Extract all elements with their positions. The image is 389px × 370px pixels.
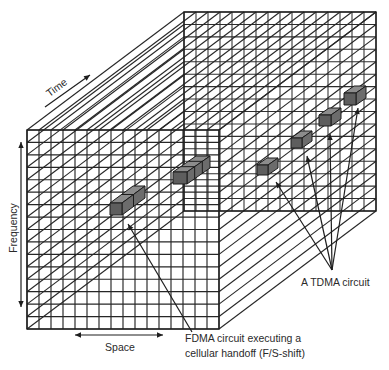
tdma-caption: A TDMA circuit <box>301 276 370 288</box>
space-axis-label: Space <box>105 341 135 353</box>
fdma-caption-line-2: cellular handoff (F/S-shift) <box>185 347 305 359</box>
cell-front-face <box>319 115 331 126</box>
cell-front-face <box>257 165 268 175</box>
fdma-tdma-cube-diagram: Time Frequency Space FDMA circuit execut… <box>0 0 389 370</box>
cell-front-face <box>344 93 356 105</box>
cell-front-face <box>291 138 302 148</box>
cell-front-face <box>110 203 122 215</box>
fdma-caption-line-1: FDMA circuit executing a <box>185 332 301 344</box>
cell-front-face <box>173 172 187 184</box>
frequency-axis-label: Frequency <box>7 202 19 252</box>
